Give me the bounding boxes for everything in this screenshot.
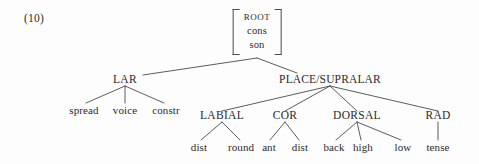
- matrix-rows: ROOT cons son: [240, 9, 275, 55]
- node-dorsal: DORSAL: [333, 110, 381, 122]
- leaf-labial-dist: dist: [191, 142, 207, 153]
- edge-lar-spread: [86, 86, 125, 103]
- leaf-spread: spread: [69, 105, 98, 116]
- leaf-constr: constr: [152, 105, 179, 116]
- leaf-voice: voice: [113, 105, 137, 116]
- root-feature-matrix: ROOT cons son: [233, 9, 282, 55]
- node-place-supralar: PLACE/SUPRALAR: [279, 74, 381, 86]
- matrix-left-bracket: [233, 9, 240, 55]
- matrix-right-bracket: [274, 9, 281, 55]
- leaf-cor-ant: ant: [262, 142, 276, 153]
- edge-place-labial: [222, 86, 330, 111]
- edge-place-cor: [285, 86, 330, 111]
- edge-root-placesupralar: [257, 58, 297, 73]
- edge-dorsal-low: [357, 122, 401, 140]
- edge-lar-constr: [125, 86, 164, 103]
- edge-labial-dist: [201, 122, 222, 140]
- node-labial: LABIAL: [200, 110, 244, 122]
- feature-root: ROOT: [244, 12, 271, 24]
- edge-cor-ant: [270, 122, 285, 140]
- edge-dorsal-high: [357, 122, 361, 140]
- feature-son: son: [249, 38, 264, 52]
- feature-geometry-figure: (10): [0, 0, 479, 164]
- leaf-dorsal-low: low: [395, 142, 412, 153]
- node-lar: LAR: [113, 74, 137, 86]
- node-rad: RAD: [425, 110, 450, 122]
- example-number: (10): [24, 12, 44, 24]
- edge-place-rad: [330, 86, 438, 111]
- edge-dorsal-back: [336, 122, 357, 140]
- feature-cons: cons: [247, 24, 267, 38]
- edge-place-dorsal: [330, 86, 357, 111]
- edge-labial-round: [222, 122, 240, 140]
- leaf-dorsal-high: high: [353, 142, 373, 153]
- edge-root-lar: [143, 58, 257, 75]
- edge-cor-dist: [285, 122, 299, 140]
- leaf-rad-tense: tense: [426, 142, 449, 153]
- leaf-labial-round: round: [228, 142, 254, 153]
- leaf-dorsal-back: back: [323, 142, 344, 153]
- leaf-cor-dist: dist: [292, 142, 308, 153]
- node-cor: COR: [273, 110, 298, 122]
